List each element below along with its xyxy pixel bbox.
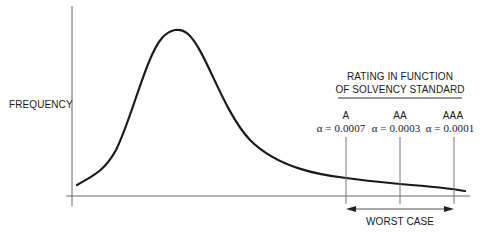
y-axis-label: FREQUENCY [9, 99, 73, 110]
arrowhead-right-icon [444, 206, 454, 212]
rating-alpha-aaa: α = 0.0001 [426, 122, 475, 134]
arrowhead-left-icon [346, 206, 356, 212]
rating-grade-aaa: AAA [443, 110, 463, 121]
header-line-1: RATING IN FUNCTION [347, 71, 453, 82]
distribution-diagram [0, 0, 491, 237]
rating-alpha-a: α = 0.0007 [317, 122, 366, 134]
rating-alpha-aa: α = 0.0003 [372, 122, 421, 134]
rating-grade-aa: AA [393, 110, 407, 121]
rating-grade-a: A [343, 110, 350, 121]
worst-case-label: WORST CASE [366, 216, 434, 227]
header-line-2: OF SOLVENCY STANDARD [335, 84, 464, 95]
